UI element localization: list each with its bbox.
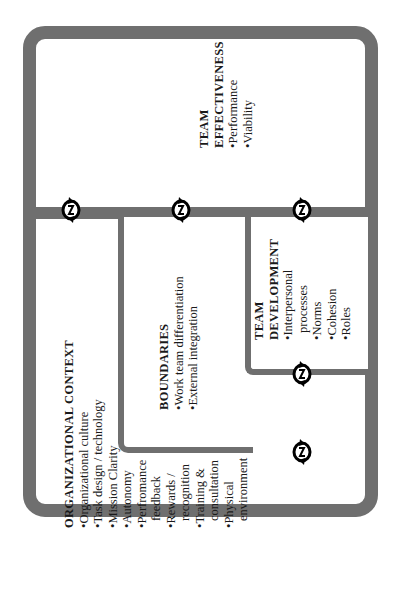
org-item: •Task design / technology (91, 340, 106, 528)
org-item: consultation (207, 340, 222, 528)
team-effectiveness-title-2: EFFECTIVENESS (212, 41, 227, 148)
boundaries-title: BOUNDARIES (157, 276, 172, 410)
team-development-section: TEAM DEVELOPMENT •Interpersonal processe… (252, 239, 354, 340)
boundaries-section: BOUNDARIES •Work team differentiation •E… (157, 276, 201, 410)
effectiveness-item: •Viability (241, 41, 256, 148)
team-development-item: •Interpersonal (281, 239, 296, 340)
boundaries-item: •External integration (186, 276, 201, 410)
org-item: •Organizational culture (77, 340, 92, 528)
cycle-arrows-icon (291, 361, 313, 387)
team-development-item: •Cohesion (325, 239, 340, 340)
org-item: environment (236, 340, 251, 528)
effectiveness-item: •Performance (226, 41, 241, 148)
team-development-item: •Norms (310, 239, 325, 340)
cycle-arrows-icon (291, 197, 313, 223)
team-effectiveness-title-1: TEAM (197, 41, 212, 148)
team-development-title-2: DEVELOPMENT (267, 239, 282, 340)
team-development-item: processes (296, 239, 311, 340)
cycle-arrows-icon (170, 197, 192, 223)
team-development-title-1: TEAM (252, 239, 267, 340)
org-context-title: ORGANIZATIONAL CONTEXT (62, 340, 77, 528)
cycle-arrows-icon (291, 439, 313, 465)
team-development-item: •Roles (339, 239, 354, 340)
team-effectiveness-section: TEAM EFFECTIVENESS •Performance •Viabili… (197, 41, 255, 148)
org-item: •Physical (222, 340, 237, 528)
org-item: •Autonomy (120, 340, 135, 528)
cycle-arrows-icon (60, 197, 82, 223)
boundaries-item: •Work team differentiation (172, 276, 187, 410)
org-item: •Perfromance (135, 340, 150, 528)
org-item: •Mission Clarity (106, 340, 121, 528)
